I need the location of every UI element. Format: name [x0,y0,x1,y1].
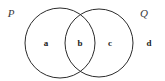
set-label-q: Q [140,8,148,19]
set-label-p: P [8,8,15,19]
venn-diagram: P Q a b c d [0,0,165,81]
region-label-a: a [44,39,49,48]
region-label-b: b [77,39,82,48]
region-label-c: c [108,39,112,48]
region-label-d: d [146,39,151,48]
